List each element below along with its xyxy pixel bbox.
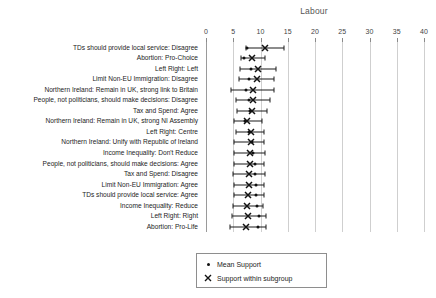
ci-cap-high — [264, 151, 265, 156]
y-axis-category-labels: TDs should provide local service: Disagr… — [0, 42, 202, 232]
mean-support-point — [254, 194, 257, 197]
x-tick-mark-20 — [315, 38, 316, 42]
category-label: Abortion: Pro-Life — [147, 223, 198, 231]
ci-cap-low — [235, 98, 236, 103]
ci-cap-low — [240, 56, 241, 61]
legend-label-mean-support: Mean Support — [217, 261, 261, 268]
ci-cap-low — [231, 87, 232, 92]
legend-label-support-within-subgroup: Support within subgroup — [217, 275, 293, 282]
category-label: Income Inequality: Reduce — [120, 202, 198, 210]
category-label: Northern Ireland: Remain in UK, strong N… — [46, 117, 198, 125]
ci-cap-low — [232, 203, 233, 208]
mean-support-point — [255, 204, 258, 207]
category-label: Left Right: Centre — [146, 128, 198, 136]
x-tick-label-10: 10 — [257, 28, 265, 35]
ci-cap-low — [233, 119, 234, 124]
subgroup-support-point — [247, 138, 255, 146]
ci-cap-high — [265, 172, 266, 177]
ci-cap-high — [284, 45, 285, 50]
ci-cap-high — [270, 98, 271, 103]
category-label: Abortion: Pro-Choice — [137, 54, 198, 62]
x-tick-label-15: 15 — [284, 28, 292, 35]
x-tick-mark-10 — [261, 38, 262, 42]
subgroup-support-point — [248, 54, 256, 62]
subgroup-support-point — [247, 128, 255, 136]
subgroup-support-point — [244, 212, 252, 220]
mean-support-point — [249, 67, 252, 70]
x-tick-mark-0 — [206, 38, 207, 42]
x-tick-label-20: 20 — [311, 28, 319, 35]
ci-cap-high — [263, 182, 264, 187]
ci-cap-high — [275, 66, 276, 71]
x-tick-mark-15 — [288, 38, 289, 42]
ci-cap-high — [264, 56, 265, 61]
ci-cap-high — [263, 193, 264, 198]
ci-cap-high — [273, 77, 274, 82]
subgroup-support-point — [244, 191, 252, 199]
gridline-40 — [424, 42, 425, 232]
subgroup-support-point — [243, 117, 251, 125]
ci-cap-high — [263, 129, 264, 134]
mean-support-point — [257, 225, 260, 228]
subgroup-support-point — [245, 181, 253, 189]
mean-support-point — [246, 46, 249, 49]
mean-support-point — [245, 88, 248, 91]
mean-support-point — [257, 215, 260, 218]
chart-title-text: Labour — [300, 6, 328, 16]
category-label: Tax and Spend: Agree — [133, 107, 198, 115]
chart-root: Labour 0510152025303540 TDs should provi… — [0, 0, 436, 298]
ci-cap-high — [267, 108, 268, 113]
ci-cap-high — [265, 224, 266, 229]
x-tick-label-0: 0 — [204, 28, 208, 35]
mean-support-point — [243, 57, 246, 60]
ci-cap-low — [235, 129, 236, 134]
category-label: Left Right: Left — [155, 65, 198, 73]
mean-support-dot-icon — [202, 263, 214, 266]
ci-cap-low — [233, 182, 234, 187]
mean-support-point — [248, 78, 251, 81]
chart-title: Labour — [0, 6, 436, 16]
subgroup-support-point — [243, 202, 251, 210]
category-label: Northern Ireland: Remain in UK, strong l… — [44, 86, 198, 94]
ci-cap-low — [238, 77, 239, 82]
x-tick-label-5: 5 — [231, 28, 235, 35]
ci-cap-low — [233, 151, 234, 156]
plot-area — [206, 42, 424, 232]
category-label: Limit Non-EU Immigration: Disagree — [92, 75, 198, 83]
support-subgroup-x-icon — [202, 274, 214, 282]
ci-cap-high — [264, 161, 265, 166]
ci-cap-high — [273, 87, 274, 92]
subgroup-support-point — [246, 149, 254, 157]
subgroup-support-point — [261, 44, 269, 52]
ci-cap-low — [231, 214, 232, 219]
x-tick-mark-40 — [424, 38, 425, 42]
category-label: People, not politicians, should make dec… — [33, 96, 198, 104]
ci-cap-low — [234, 140, 235, 145]
category-label: People, not politicians, should make dec… — [43, 160, 198, 168]
category-label: Limit Non-EU Immigration: Agree — [102, 181, 198, 189]
mean-support-point — [255, 183, 258, 186]
ci-cap-high — [263, 203, 264, 208]
ci-cap-low — [237, 108, 238, 113]
ci-cap-low — [240, 66, 241, 71]
x-tick-mark-30 — [370, 38, 371, 42]
legend-item-mean-support: Mean Support — [202, 257, 321, 271]
mean-support-point — [254, 173, 257, 176]
x-tick-mark-5 — [233, 38, 234, 42]
ci-cap-high — [261, 119, 262, 124]
subgroup-support-point — [254, 65, 262, 73]
subgroup-support-point — [249, 86, 257, 94]
category-label: TDs should provide local service: Agree — [82, 191, 198, 199]
ci-cap-high — [263, 140, 264, 145]
subgroup-support-point — [246, 160, 254, 168]
subgroup-support-point — [249, 96, 257, 104]
subgroup-support-point — [245, 170, 253, 178]
ci-cap-low — [229, 224, 230, 229]
x-tick-label-30: 30 — [366, 28, 374, 35]
x-tick-mark-35 — [397, 38, 398, 42]
category-label: Income Inequality: Don't Reduce — [103, 149, 198, 157]
subgroup-support-point — [253, 75, 261, 83]
category-label: Northern Ireland: Unify with Republic of… — [61, 138, 198, 146]
chart-legend: Mean Support Support within subgroup — [196, 253, 327, 288]
x-tick-mark-25 — [342, 38, 343, 42]
